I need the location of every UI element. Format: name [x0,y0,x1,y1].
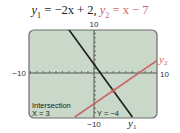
graph: Intersection X = 3 Y = −4 10 −10 10 −10 … [0,0,180,133]
y-min-label: −10 [87,120,101,129]
x-min-label: −10 [12,69,26,78]
line-label-y1: y1 [127,117,137,131]
line-label-y2: y2 [158,53,168,67]
x-readout: X = 3 [32,109,50,118]
y-readout: Y = −4 [97,109,119,118]
x-max-label: 10 [160,70,169,79]
y-max-label: 10 [90,20,99,29]
